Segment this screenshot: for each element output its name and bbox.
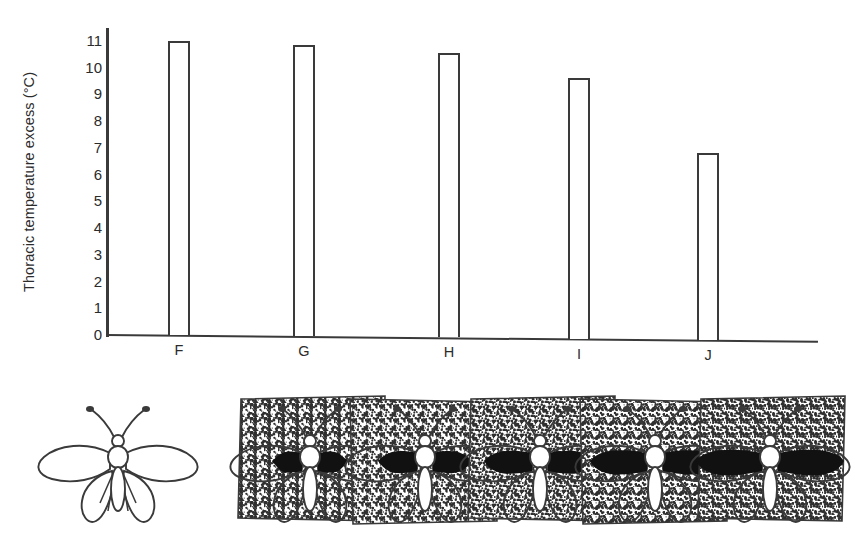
x-tick-label-f: F [175, 343, 184, 358]
bar-i [568, 78, 590, 339]
bar-chart: Thoracic temperature excess (°C) 1110987… [0, 0, 834, 375]
bar-j [697, 153, 719, 340]
bar-h [438, 53, 460, 338]
x-tick-label-h: H [444, 345, 454, 360]
x-tick-label-g: G [298, 344, 309, 359]
butterfly-specimen-j [682, 375, 850, 543]
x-tick-label-i: I [577, 347, 581, 362]
bar-f [168, 41, 190, 335]
plot-area: FGHIJ [0, 0, 834, 375]
x-tick-label-j: J [704, 348, 711, 363]
white-outline-butterfly [30, 375, 198, 543]
bar-g [293, 45, 315, 336]
specimen-illustration-strip [0, 375, 834, 543]
